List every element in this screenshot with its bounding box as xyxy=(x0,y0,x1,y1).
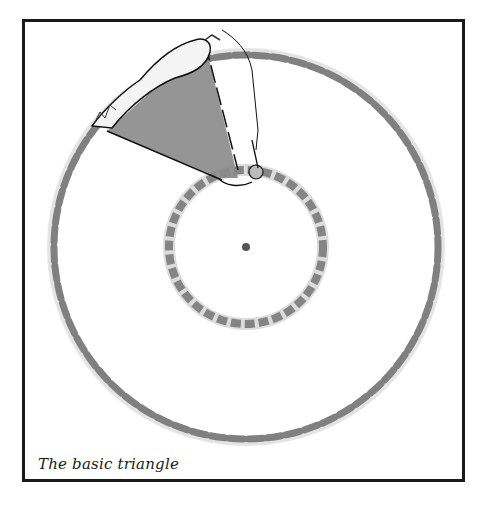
center-dot xyxy=(242,243,250,251)
triangle-diagram xyxy=(0,0,487,508)
figure-caption: The basic triangle xyxy=(38,455,179,473)
